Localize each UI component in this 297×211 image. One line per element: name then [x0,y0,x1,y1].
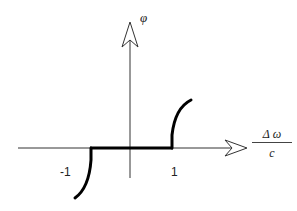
right-branch-curve [172,100,191,148]
y-axis [122,22,138,178]
x-axis-label-numerator: Δ ω [252,128,292,143]
x-axis-label-denominator: c [252,143,292,159]
y-axis-label: φ [140,11,147,24]
diagram-canvas [0,0,297,211]
x-tick-label-pos1: 1 [171,166,178,178]
x-tick-label-neg1: -1 [60,166,71,178]
x-axis-label: Δ ω c [252,128,292,159]
left-branch-curve [75,148,91,198]
